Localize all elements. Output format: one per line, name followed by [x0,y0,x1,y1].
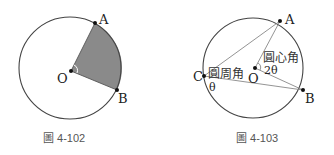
point-o [253,66,257,70]
label-a: A [98,12,109,27]
central-angle-mark [258,63,261,70]
point-o [69,69,73,73]
point-a [278,19,282,23]
label-o: O [57,71,68,86]
diagram-canvas: A B O 圖 4-102 A B C O 圓心角 2θ 圓周角 θ 圖 4-1… [0,0,334,155]
label-c: C [193,69,203,84]
label-b: B [118,91,128,106]
label-b: B [305,91,315,106]
label-central-value: 2θ [264,64,278,77]
caption-4-103: 圖 4-103 [236,132,278,144]
caption-4-102: 圖 4-102 [43,132,85,144]
label-o: O [248,71,259,86]
label-inscribed-angle: 圓周角 [208,67,244,81]
figure-4-103: A B C O 圓心角 2θ 圓周角 θ 圖 4-103 [193,12,315,144]
label-inscribed-value: θ [209,81,216,94]
label-a: A [284,12,295,27]
figure-4-102: A B O 圖 4-102 [19,12,128,144]
label-central-angle: 圓心角 [263,51,299,65]
point-a [93,21,97,25]
